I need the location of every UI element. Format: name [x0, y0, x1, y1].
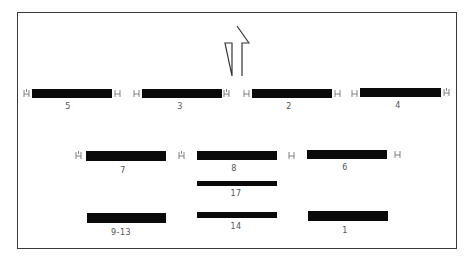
tick-mark-icon [243, 89, 250, 98]
bar-label-5: 5 [48, 102, 88, 111]
bar-14 [197, 212, 277, 218]
bar-label-17: 17 [216, 189, 256, 198]
bar-9-13 [87, 213, 166, 223]
bar-1 [308, 211, 388, 221]
bar-label-14: 14 [216, 222, 256, 231]
bar-6 [307, 150, 387, 159]
tick-mark-icon [223, 89, 230, 98]
tick-mark-icon [23, 89, 30, 98]
tick-mark-icon [334, 89, 341, 98]
tick-mark-icon [133, 89, 140, 98]
tick-mark-icon [114, 89, 121, 98]
bar-17 [197, 181, 277, 186]
bar-label-9-13: 9-13 [101, 228, 141, 237]
bar-label-2: 2 [269, 102, 309, 111]
bar-2 [252, 89, 332, 98]
bar-label-1: 1 [325, 226, 365, 235]
tick-mark-icon [394, 150, 401, 159]
tick-mark-icon [351, 89, 358, 98]
bar-label-7: 7 [103, 166, 143, 175]
bar-label-4: 4 [378, 101, 418, 110]
bar-label-3: 3 [160, 102, 200, 111]
up-arrow-icon [224, 25, 250, 81]
bar-8 [197, 151, 277, 160]
bar-label-8: 8 [214, 164, 254, 173]
tick-mark-icon [178, 151, 185, 160]
bar-7 [86, 151, 166, 161]
bar-3 [142, 89, 222, 98]
bar-5 [32, 89, 112, 98]
tick-mark-icon [443, 88, 450, 97]
tick-mark-icon [75, 151, 82, 160]
bar-4 [360, 88, 441, 97]
bar-label-6: 6 [325, 163, 365, 172]
tick-mark-icon [288, 151, 295, 160]
